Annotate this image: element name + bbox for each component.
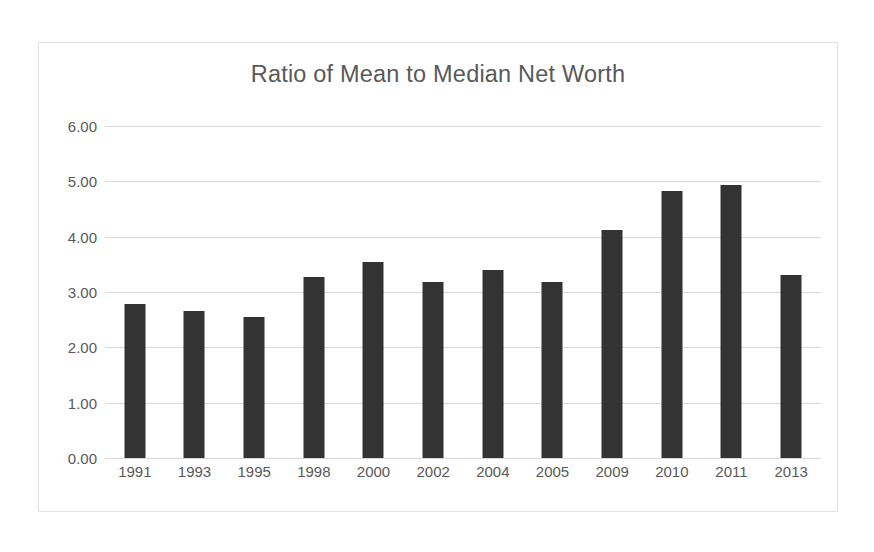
x-tick-label: 2010	[655, 463, 688, 480]
y-tick-label: 4.00	[45, 228, 97, 245]
chart-title: Ratio of Mean to Median Net Worth	[39, 61, 837, 88]
x-tick-label: 1993	[178, 463, 211, 480]
bar-slot	[344, 126, 404, 458]
y-tick-label: 5.00	[45, 173, 97, 190]
bar[interactable]	[363, 262, 384, 457]
chart-frame: Ratio of Mean to Median Net Worth 6.005.…	[38, 42, 838, 512]
x-tick-label: 2011	[715, 463, 747, 480]
bar-slot	[582, 126, 642, 458]
bar-series	[105, 126, 821, 458]
bar[interactable]	[661, 191, 682, 458]
bar[interactable]	[721, 185, 742, 457]
y-tick-label: 2.00	[45, 339, 97, 356]
bar-slot	[761, 126, 821, 458]
y-tick-label: 0.00	[45, 450, 97, 467]
x-tick-label: 1995	[237, 463, 270, 480]
bar-slot	[642, 126, 702, 458]
x-axis: 1991199319951998200020022004200520092010…	[105, 463, 821, 493]
gridline-0.00	[105, 458, 821, 459]
bar-slot	[463, 126, 523, 458]
bar-slot	[284, 126, 344, 458]
bar[interactable]	[781, 275, 802, 458]
bar[interactable]	[124, 304, 145, 458]
x-tick-label: 2009	[595, 463, 628, 480]
bar[interactable]	[482, 270, 503, 458]
x-tick-label: 2005	[536, 463, 569, 480]
y-tick-label: 6.00	[45, 118, 97, 135]
bar-slot	[403, 126, 463, 458]
x-tick-label: 1998	[297, 463, 330, 480]
bar-slot	[224, 126, 284, 458]
x-tick-label: 2002	[416, 463, 449, 480]
x-tick-label: 2000	[357, 463, 390, 480]
y-tick-label: 3.00	[45, 284, 97, 301]
bar-slot	[523, 126, 583, 458]
bar[interactable]	[602, 230, 623, 458]
bar[interactable]	[184, 311, 205, 458]
x-tick-label: 2004	[476, 463, 509, 480]
bar[interactable]	[303, 277, 324, 457]
x-tick-label: 2013	[774, 463, 807, 480]
bar-slot	[702, 126, 762, 458]
bar[interactable]	[244, 317, 265, 458]
bar[interactable]	[542, 282, 563, 457]
bar[interactable]	[423, 282, 444, 457]
x-tick-label: 1991	[118, 463, 151, 480]
bar-slot	[165, 126, 225, 458]
bar-slot	[105, 126, 165, 458]
y-axis: 6.005.004.003.002.001.000.00	[39, 126, 97, 458]
y-tick-label: 1.00	[45, 394, 97, 411]
